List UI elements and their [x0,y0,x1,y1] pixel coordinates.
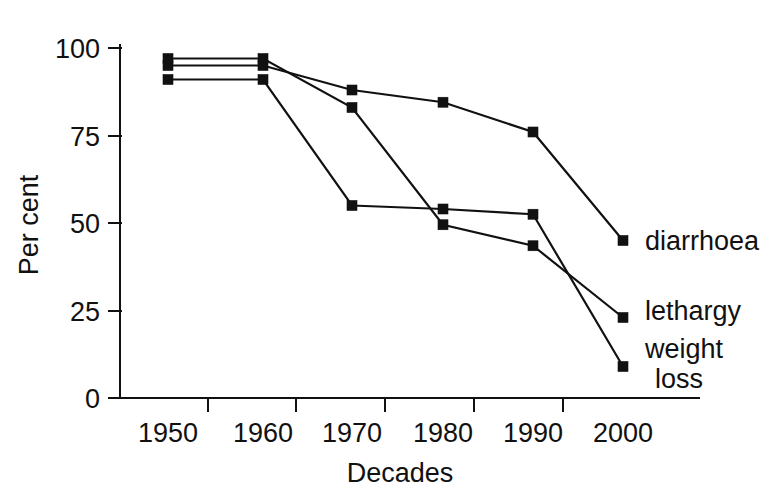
x-tick-label-1960: 1960 [233,418,293,448]
series-labels: diarrhoea lethargy weight loss [644,226,760,394]
y-tick-label-50: 50 [70,209,100,239]
x-tick-label-2000: 2000 [593,418,653,448]
data-point-marker [347,201,357,211]
x-tick-label-1980: 1980 [413,418,473,448]
series-label-weight-loss-line2: loss [655,364,703,394]
x-axis-title: Decades [347,458,454,488]
data-point-marker [438,204,448,214]
series-line-lethargy [168,59,623,318]
series-markers-lethargy [163,54,628,323]
y-axis-tick-labels: 100 75 50 25 0 [55,34,100,414]
data-point-marker [528,241,538,251]
series-label-weight-loss-line1: weight [644,334,724,364]
data-point-marker [438,220,448,230]
x-axis-tick-labels: 1950 1960 1970 1980 1990 2000 [138,418,653,448]
series-markers-diarrhoea [163,61,628,246]
data-point-marker [438,97,448,107]
data-point-marker [618,236,628,246]
x-axis-ticks [208,398,563,412]
series-label-lethargy: lethargy [645,296,742,326]
data-point-marker [163,54,173,64]
data-point-marker [347,103,357,113]
y-tick-label-25: 25 [70,297,100,327]
y-tick-label-75: 75 [70,122,100,152]
data-point-marker [347,85,357,95]
y-tick-label-100: 100 [55,34,100,64]
data-point-marker [528,127,538,137]
x-tick-label-1990: 1990 [503,418,563,448]
series-line-weight-loss [168,80,623,367]
series-label-diarrhoea: diarrhoea [645,226,760,256]
series-markers [163,54,628,372]
data-point-marker [618,362,628,372]
data-point-marker [258,54,268,64]
data-point-marker [618,313,628,323]
series-line-diarrhoea [168,66,623,241]
series-lines [168,59,623,367]
data-point-marker [528,209,538,219]
x-tick-label-1970: 1970 [322,418,382,448]
chart-container: 100 75 50 25 0 Per cent 1950 1960 1970 1… [0,0,784,495]
y-axis-title: Per cent [14,174,44,275]
y-tick-label-0: 0 [85,384,100,414]
data-point-marker [258,75,268,85]
series-markers-weight-loss [163,75,628,372]
line-chart: 100 75 50 25 0 Per cent 1950 1960 1970 1… [0,0,784,495]
x-tick-label-1950: 1950 [138,418,198,448]
data-point-marker [163,75,173,85]
